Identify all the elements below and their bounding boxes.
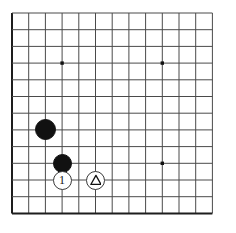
go-board-diagram: 1 xyxy=(0,0,236,233)
star-point xyxy=(161,162,164,165)
grid-lines xyxy=(12,13,212,213)
star-point xyxy=(60,61,63,64)
go-board-grid xyxy=(0,0,236,233)
stone-white-marked[interactable] xyxy=(86,171,105,190)
triangle-icon xyxy=(87,172,104,189)
stone-white-marked[interactable]: 1 xyxy=(53,171,72,190)
stone-black[interactable] xyxy=(53,154,72,173)
stone-move-number: 1 xyxy=(54,172,71,189)
star-point xyxy=(161,61,164,64)
